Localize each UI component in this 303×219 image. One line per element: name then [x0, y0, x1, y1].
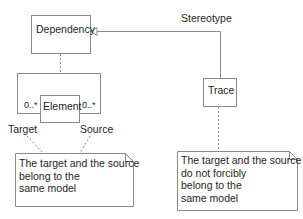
right-note-text: The target and the source do not forcibl… — [181, 154, 301, 204]
clipped-caption-fragment — [0, 214, 303, 219]
stereotype-label: Stereotype — [181, 12, 232, 24]
trace-class-name: Trace — [208, 84, 234, 96]
dependency-class-box: Dependency — [31, 15, 91, 54]
left-note-text: The target and the source belong to the … — [19, 157, 139, 195]
right-note-line: do not forcibly — [181, 167, 301, 180]
element-class-name: Element — [43, 100, 82, 112]
left-note: The target and the source belong to the … — [15, 153, 134, 207]
left-note-line: belong to the — [19, 170, 139, 183]
right-note-line: belong to the — [181, 179, 301, 192]
element-class-box: Element — [40, 95, 80, 123]
generalization-line — [97, 32, 221, 79]
left-note-line: The target and the source — [19, 157, 139, 170]
right-note-line: same model — [181, 192, 301, 205]
dependency-class-name: Dependency — [36, 23, 95, 35]
trace-class-box: Trace — [203, 78, 237, 107]
right-note-line: The target and the source — [181, 154, 301, 167]
source-role-label: Source — [80, 123, 113, 135]
target-role-label: Target — [8, 123, 37, 135]
right-note: The target and the source do not forcibl… — [177, 151, 298, 211]
source-note-dashed-line — [80, 136, 90, 153]
left-note-line: same model — [19, 182, 139, 195]
target-multiplicity: 0..* — [24, 99, 38, 111]
target-note-dashed-line — [27, 136, 43, 153]
source-multiplicity: 0..* — [82, 99, 96, 111]
